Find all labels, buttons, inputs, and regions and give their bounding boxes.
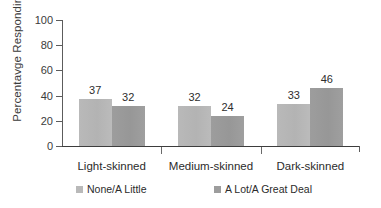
legend-item-none-a-little[interactable]: None/A Little [76,184,147,195]
y-axis-tick-label: 60 [13,65,53,76]
bar[interactable] [79,99,112,146]
bar-value-label: 32 [178,92,211,103]
category-label: Light-skinned [62,160,161,172]
y-axis-tick-label: 20 [13,116,53,127]
category-label: Medium-skinned [161,160,260,172]
bar[interactable] [277,104,310,146]
y-axis-tick-label: 100 [13,15,53,26]
bar-value-label: 37 [79,85,112,96]
chart-legend: None/A Little A Lot/A Great Deal [62,184,360,200]
bar-value-label: 33 [277,90,310,101]
legend-swatch-icon [76,186,83,193]
bar-value-label: 46 [310,74,343,85]
bar[interactable] [112,106,145,146]
x-axis-end-tick [359,146,360,152]
category-divider-tick [161,147,162,154]
category-label: Dark-skinned [261,160,360,172]
bar[interactable] [178,106,211,146]
bar-chart: Percentavge Responding 020406080100 3732… [0,0,381,208]
bar[interactable] [310,88,343,146]
bar[interactable] [211,116,244,146]
y-axis-tick-label: 80 [13,40,53,51]
bar-value-label: 32 [112,92,145,103]
y-axis-tick-label: 40 [13,91,53,102]
legend-item-a-lot-a-great-deal[interactable]: A Lot/A Great Deal [214,184,312,195]
legend-item-label: A Lot/A Great Deal [225,184,312,195]
bar-value-label: 24 [211,102,244,113]
legend-item-label: None/A Little [87,184,147,195]
category-divider-tick [261,147,262,154]
y-axis-tick-label: 0 [13,141,53,152]
y-axis-tick-mark [56,146,62,147]
plot-area: 373232243346 [62,20,360,146]
legend-swatch-icon [214,186,221,193]
x-axis-line [62,146,360,147]
